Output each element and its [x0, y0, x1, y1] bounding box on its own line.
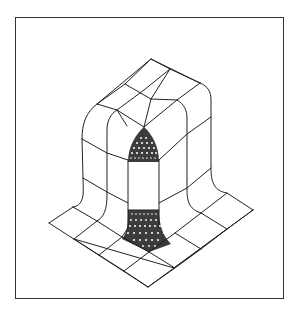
refined-mesh-top-dome: [128, 127, 159, 162]
pillar-mesh-diagram: [0, 0, 302, 318]
pillar-right-face: [159, 83, 227, 228]
refined-mesh-bottom-fillet: [122, 210, 171, 252]
pillar-top-grid: [97, 59, 200, 127]
pillar-left-face: [73, 104, 128, 237]
